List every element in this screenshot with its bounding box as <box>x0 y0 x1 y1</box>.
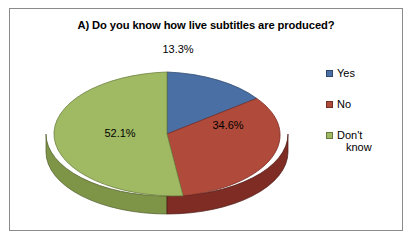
legend-swatch-dont-know <box>326 132 333 139</box>
legend-item-dont-know[interactable]: Don'tknow <box>326 129 402 153</box>
legend-label-yes: Yes <box>337 67 355 79</box>
legend-swatch-no <box>326 101 333 108</box>
chart-legend: Yes No Don'tknow <box>326 67 402 172</box>
legend-label-dont-know: Don'tknow <box>337 129 372 153</box>
chart-frame: A) Do you know how live subtitles are pr… <box>9 8 403 231</box>
pie-value-label-no: 34.6% <box>212 119 243 131</box>
legend-item-no[interactable]: No <box>326 98 402 110</box>
legend-label-dont-know-line2: know <box>337 141 372 153</box>
pie-value-label-yes: 13.3% <box>162 43 193 55</box>
legend-label-dont-know-line1: Don't <box>337 129 362 141</box>
legend-item-yes[interactable]: Yes <box>326 67 402 79</box>
pie-value-label-dont-know: 52.1% <box>104 127 135 139</box>
legend-swatch-yes <box>326 70 333 77</box>
pie-top-face <box>54 72 280 196</box>
legend-label-no: No <box>337 98 351 110</box>
